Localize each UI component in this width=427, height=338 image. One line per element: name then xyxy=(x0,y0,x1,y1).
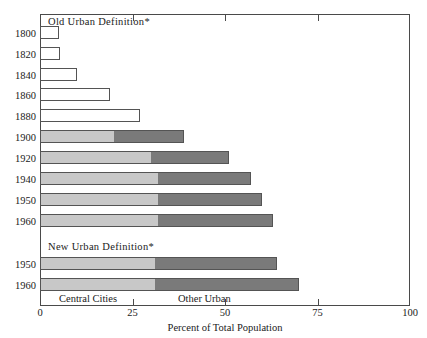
bar-1800-total xyxy=(40,26,59,39)
top-tick-50 xyxy=(225,14,226,21)
bar-1860-total xyxy=(40,88,110,101)
bar-1940-central-cities xyxy=(40,172,158,185)
bar-1920 xyxy=(40,151,229,164)
bar-new-1950 xyxy=(40,257,277,270)
xtick-label-100: 100 xyxy=(402,307,418,318)
legend-label-other-urban: Other Urban xyxy=(178,293,231,304)
bar-1860 xyxy=(40,88,110,101)
xtick-label-25: 25 xyxy=(127,307,138,318)
bar-1840 xyxy=(40,68,77,81)
year-label-new-1950: 1950 xyxy=(2,259,36,270)
year-label-1900: 1900 xyxy=(2,132,36,143)
legend-label-central-cities: Central Cities xyxy=(59,293,117,304)
bar-1820 xyxy=(40,47,60,60)
bar-1950 xyxy=(40,193,262,206)
bar-1900-other-urban xyxy=(114,130,184,143)
group-title-old: Old Urban Definition* xyxy=(48,16,150,27)
year-label-1860: 1860 xyxy=(2,90,36,101)
bar-1950-other-urban xyxy=(158,193,262,206)
bar-1960-central-cities xyxy=(40,214,158,227)
year-label-new-1960: 1960 xyxy=(2,280,36,291)
bar-new-1950-other-urban xyxy=(155,257,277,270)
xtick-label-50: 50 xyxy=(220,307,231,318)
top-tick-75 xyxy=(318,14,319,21)
year-label-1950: 1950 xyxy=(2,195,36,206)
year-label-1800: 1800 xyxy=(2,28,36,39)
bar-new-1960-central-cities xyxy=(40,278,155,291)
year-label-1880: 1880 xyxy=(2,111,36,122)
bar-1920-central-cities xyxy=(40,151,151,164)
bottom-tick-75 xyxy=(318,299,319,306)
bar-1820-total xyxy=(40,47,60,60)
bottom-tick-25 xyxy=(133,299,134,306)
bar-1800 xyxy=(40,26,59,39)
bar-1960 xyxy=(40,214,273,227)
bar-1950-central-cities xyxy=(40,193,158,206)
bottom-tick-50 xyxy=(225,299,226,306)
year-label-1820: 1820 xyxy=(2,49,36,60)
bar-new-1960-other-urban xyxy=(155,278,299,291)
year-label-1960: 1960 xyxy=(2,216,36,227)
bar-1940 xyxy=(40,172,251,185)
bar-1940-other-urban xyxy=(158,172,251,185)
xtick-label-0: 0 xyxy=(37,307,42,318)
bar-new-1950-central-cities xyxy=(40,257,155,270)
x-axis-title: Percent of Total Population xyxy=(168,322,283,333)
group-title-new: New Urban Definition* xyxy=(48,241,154,252)
bar-1920-other-urban xyxy=(151,151,229,164)
bar-1900-central-cities xyxy=(40,130,114,143)
year-label-1920: 1920 xyxy=(2,153,36,164)
bar-new-1960 xyxy=(40,278,299,291)
xtick-label-75: 75 xyxy=(312,307,323,318)
population-urbanization-chart: Old Urban Definition* 1800 1820 1840 186… xyxy=(0,0,427,338)
year-label-1840: 1840 xyxy=(2,70,36,81)
year-label-1940: 1940 xyxy=(2,174,36,185)
bar-1840-total xyxy=(40,68,77,81)
bar-1880-total xyxy=(40,109,140,122)
bar-1900 xyxy=(40,130,184,143)
bar-1960-other-urban xyxy=(158,214,273,227)
bar-1880 xyxy=(40,109,140,122)
